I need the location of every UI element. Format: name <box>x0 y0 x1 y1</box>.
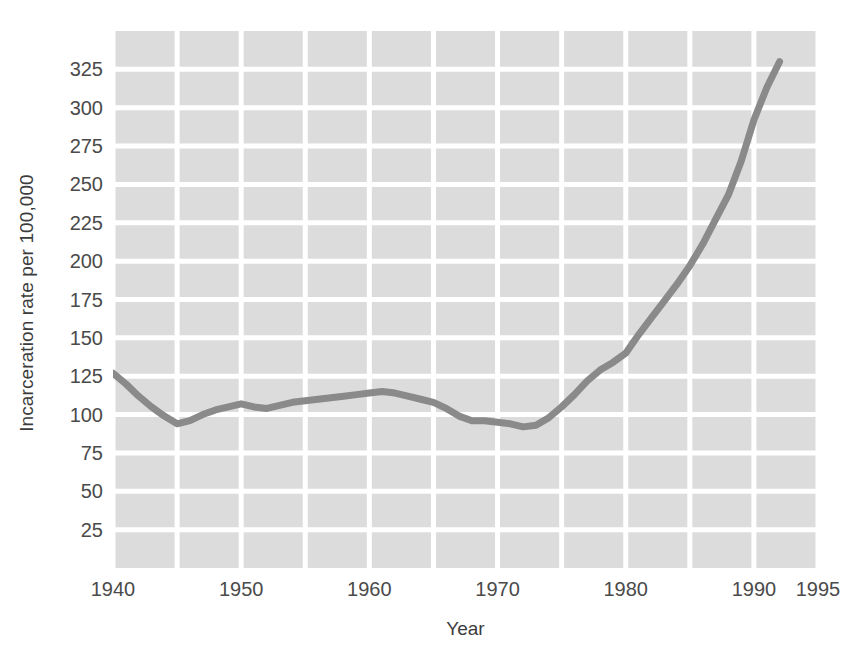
x-axis-tick-labels: 1940195019601970198019901995 <box>0 0 853 661</box>
x-tick-label: 1960 <box>347 578 392 601</box>
x-tick-label: 1950 <box>219 578 264 601</box>
x-axis-title: Year <box>113 618 818 640</box>
x-tick-label: 1940 <box>91 578 136 601</box>
x-tick-label: 1990 <box>732 578 777 601</box>
x-tick-label: 1995 <box>796 578 841 601</box>
x-tick-label: 1980 <box>603 578 648 601</box>
incarceration-rate-line-chart: Incarceration rate per 100,000 255075100… <box>0 0 853 661</box>
x-tick-label: 1970 <box>475 578 520 601</box>
